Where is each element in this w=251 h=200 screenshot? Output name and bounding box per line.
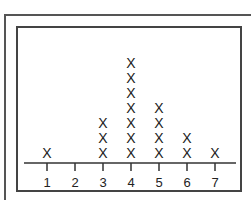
x-marks: XXXXXXXXXXXXXXXXXX: [42, 55, 220, 161]
x-mark: X: [154, 145, 164, 161]
x-mark: X: [98, 145, 108, 161]
x-mark: X: [98, 115, 108, 131]
x-mark: X: [154, 100, 164, 116]
x-mark: X: [126, 130, 136, 146]
x-mark: X: [126, 100, 136, 116]
x-mark: X: [210, 145, 220, 161]
tick-label: 4: [127, 175, 134, 190]
tick-labels: 1234567: [43, 175, 218, 190]
x-mark: X: [98, 130, 108, 146]
x-mark: X: [126, 70, 136, 86]
x-mark: X: [126, 55, 136, 71]
x-mark: X: [182, 130, 192, 146]
tick-marks: [47, 163, 215, 171]
x-mark: X: [126, 145, 136, 161]
dot-plot: 1234567 XXXXXXXXXXXXXXXXXX: [0, 0, 251, 200]
tick-label: 6: [183, 175, 190, 190]
tick-label: 5: [155, 175, 162, 190]
tick-label: 2: [71, 175, 78, 190]
tick-label: 1: [43, 175, 50, 190]
x-mark: X: [154, 130, 164, 146]
x-mark: X: [182, 145, 192, 161]
x-mark: X: [42, 145, 52, 161]
tick-label: 7: [211, 175, 218, 190]
tick-label: 3: [99, 175, 106, 190]
x-mark: X: [154, 115, 164, 131]
x-mark: X: [126, 85, 136, 101]
x-mark: X: [126, 115, 136, 131]
